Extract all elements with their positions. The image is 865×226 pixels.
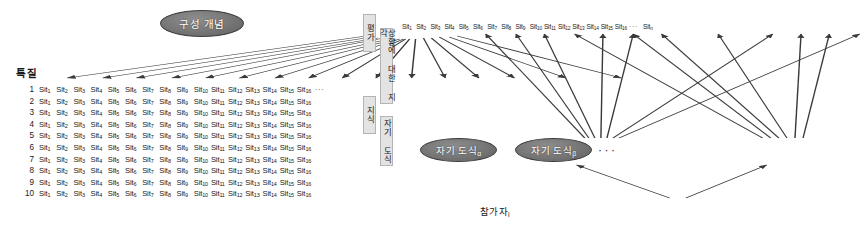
grid-cell: Sit9 — [177, 97, 194, 106]
situation-tick: Sit11 — [544, 23, 558, 31]
construct-concept-label: 구성 개념 — [179, 16, 224, 31]
right-diagram-panel: 평가 지식 상황에 대한 지각 자기 도식 Sit1Sit2Sit3Sit4Si… — [330, 0, 653, 226]
construct-concept-node: 구성 개념 — [160, 10, 244, 37]
grid-cell: Sit12 — [228, 85, 245, 94]
grid-cell: Sit14 — [262, 155, 279, 164]
grid-cell: Sit1 — [39, 178, 56, 187]
grid-cell: Sit14 — [262, 166, 279, 175]
grid-cell: Sit7 — [142, 143, 159, 152]
grid-cell: Sit1 — [39, 155, 56, 164]
grid-cell: Sit6 — [125, 97, 142, 106]
grid-cell: Sit16 — [297, 178, 314, 187]
grid-cell: Sit16 — [297, 120, 314, 129]
grid-cell: Sit6 — [125, 131, 142, 140]
schema-to-situation-arrows — [486, 34, 860, 138]
grid-cell: Sit2 — [56, 143, 73, 152]
grid-cell: Sit8 — [159, 108, 176, 117]
grid-cell: Sit8 — [159, 155, 176, 164]
situation-tick: Sit7 — [487, 23, 501, 31]
grid-cell: Sit16 — [297, 143, 314, 152]
grid-cell: Sit9 — [177, 143, 194, 152]
grid-cell: Sit5 — [108, 178, 125, 187]
grid-cell: Sit4 — [91, 131, 108, 140]
grid-cell: Sit10 — [194, 97, 211, 106]
grid-cell: Sit7 — [142, 189, 159, 198]
grid-cell: Sit8 — [159, 178, 176, 187]
grid-cell: Sit5 — [108, 97, 125, 106]
grid-cell: Sit13 — [245, 155, 262, 164]
right-arrow-layer — [330, 0, 865, 226]
grid-cell: Sit6 — [125, 85, 142, 94]
grid-cell: Sit1 — [39, 120, 56, 129]
grid-cell: Sit2 — [56, 166, 73, 175]
grid-cell: Sit12 — [228, 178, 245, 187]
grid-cell: Sit1 — [39, 131, 56, 140]
grid-cell: Sit6 — [125, 178, 142, 187]
situation-tick: Sit9 — [516, 23, 530, 31]
grid-cell: Sit11 — [211, 97, 228, 106]
vertical-label-self-schema: 자기 도식 — [380, 116, 393, 166]
grid-cell: Sit9 — [177, 155, 194, 164]
grid-cell: Sit1 — [39, 143, 56, 152]
grid-cell: Sit11 — [211, 120, 228, 129]
grid-cell: Sit3 — [73, 178, 90, 187]
grid-cell: Sit16 — [297, 131, 314, 140]
participant-to-schema-arrows — [577, 165, 767, 198]
grid-cell: Sit10 — [194, 131, 211, 140]
grid-cell: Sit2 — [56, 189, 73, 198]
grid-cell: Sit11 — [211, 178, 228, 187]
grid-cell: Sit4 — [91, 97, 108, 106]
grid-cell: Sit3 — [73, 189, 90, 198]
grid-cell: Sit14 — [262, 143, 279, 152]
grid-cell: Sit14 — [262, 178, 279, 187]
grid-cell: Sit15 — [280, 85, 297, 94]
grid-cell: Sit8 — [159, 97, 176, 106]
grid-cell: Sit15 — [280, 131, 297, 140]
grid-row-number: 9 — [12, 178, 39, 187]
grid-row: 1Sit1Sit2Sit3Sit4Sit5Sit6Sit7Sit8Sit9Sit… — [12, 85, 322, 97]
self-schema-beta-node: 자기 도식β — [515, 138, 592, 162]
grid-cell: Sit1 — [39, 108, 56, 117]
grid-cell: Sit10 — [194, 85, 211, 94]
grid-cell: Sit14 — [262, 189, 279, 198]
grid-cell: Sit12 — [228, 166, 245, 175]
grid-cell: Sit12 — [228, 155, 245, 164]
grid-cell: Sit11 — [211, 131, 228, 140]
grid-cell: Sit14 — [262, 108, 279, 117]
grid-cell: Sit3 — [73, 131, 90, 140]
grid-cell: Sit15 — [280, 108, 297, 117]
grid-cell: Sit9 — [177, 178, 194, 187]
grid-cell: Sit2 — [56, 155, 73, 164]
grid-cell: Sit4 — [91, 143, 108, 152]
situation-tick: Sit10 — [530, 23, 544, 31]
situation-tick-n: Sitn — [643, 23, 653, 31]
grid-cell: Sit16 — [297, 189, 314, 198]
grid-cell: Sit8 — [159, 120, 176, 129]
grid-cell: Sit10 — [194, 155, 211, 164]
grid-cell: Sit7 — [142, 120, 159, 129]
grid-cell: Sit5 — [108, 120, 125, 129]
grid-cell: Sit10 — [194, 143, 211, 152]
grid-cell: Sit16 — [297, 108, 314, 117]
grid-cell: Sit12 — [228, 120, 245, 129]
grid-cell: Sit9 — [177, 131, 194, 140]
grid-cell: Sit8 — [159, 85, 176, 94]
grid-cell: Sit4 — [91, 178, 108, 187]
grid-row-ellipsis: ··· — [314, 85, 324, 94]
grid-row: 2Sit1Sit2Sit3Sit4Sit5Sit6Sit7Sit8Sit9Sit… — [12, 97, 322, 109]
grid-cell: Sit7 — [142, 131, 159, 140]
grid-cell: Sit3 — [73, 120, 90, 129]
grid-cell: Sit2 — [56, 120, 73, 129]
grid-cell: Sit10 — [194, 108, 211, 117]
grid-cell: Sit2 — [56, 85, 73, 94]
grid-cell: Sit4 — [91, 108, 108, 117]
grid-row-number: 5 — [12, 131, 39, 140]
grid-row: 5Sit1Sit2Sit3Sit4Sit5Sit6Sit7Sit8Sit9Sit… — [12, 131, 322, 143]
grid-cell: Sit14 — [262, 97, 279, 106]
grid-cell: Sit7 — [142, 108, 159, 117]
grid-cell: Sit13 — [245, 166, 262, 175]
grid-row-number: 10 — [12, 189, 39, 198]
grid-cell: Sit1 — [39, 85, 56, 94]
grid-cell: Sit8 — [159, 166, 176, 175]
